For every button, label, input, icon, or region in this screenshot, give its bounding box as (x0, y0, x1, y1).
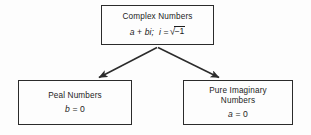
node-complex-numbers-label: Complex Numbers (122, 12, 192, 22)
arrow-complex-to-imaginary (158, 48, 219, 78)
formula-value-zero: 0 (243, 109, 248, 119)
diagram-canvas: Complex Numbers a + bi; i =√−1 Peal Numb… (0, 0, 311, 135)
node-complex-numbers[interactable]: Complex Numbers a + bi; i =√−1 (101, 5, 214, 45)
formula-term-bi: bi; (145, 26, 154, 36)
square-root-icon: √−1 (169, 26, 186, 38)
formula-value-zero: 0 (80, 104, 85, 114)
node-complex-numbers-formula: a + bi; i =√−1 (130, 26, 186, 38)
node-pure-imaginary-formula: a = 0 (228, 109, 248, 119)
node-pure-imaginary-label-line1: Pure Imaginary (209, 86, 267, 96)
node-pure-imaginary-numbers[interactable]: Pure Imaginary Numbers a = 0 (183, 80, 293, 125)
formula-radicand: −1 (174, 26, 186, 36)
node-pure-imaginary-label-line2: Numbers (221, 96, 255, 106)
node-real-numbers-label: Peal Numbers (48, 91, 102, 101)
node-real-numbers[interactable]: Peal Numbers b = 0 (18, 80, 132, 125)
arrow-complex-to-real (99, 48, 157, 78)
node-real-numbers-formula: b = 0 (65, 104, 85, 114)
